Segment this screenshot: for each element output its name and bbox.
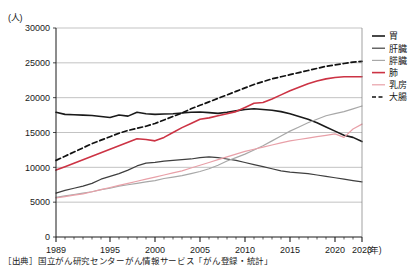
legend-label-1: 肝臓 <box>389 44 407 54</box>
legend-label-2: 膵臓 <box>389 56 407 66</box>
line-chart: 050001000015000200002500030000 198919952… <box>0 0 418 269</box>
legend-label-0: 胃 <box>389 31 398 41</box>
x-axis-ticks: 19891995200020052010201520202023(年) <box>46 237 382 255</box>
x-axis-unit-label: (年) <box>367 245 382 255</box>
y-tick-label: 20000 <box>25 93 50 103</box>
series-line-5 <box>56 61 362 160</box>
y-axis-ticks: 050001000015000200002500030000 <box>25 23 56 242</box>
x-tick-label: 2020 <box>325 245 345 255</box>
chart-legend: 胃肝臓膵臓肺乳房大腸 <box>372 31 407 102</box>
legend-label-3: 肺 <box>389 68 398 78</box>
legend-label-5: 大腸 <box>389 91 407 102</box>
y-tick-label: 15000 <box>25 128 50 138</box>
y-tick-label: 30000 <box>25 23 50 33</box>
y-tick-label: 5000 <box>30 197 50 207</box>
series-lines <box>56 61 362 198</box>
series-line-3 <box>56 77 362 170</box>
y-tick-label: 0 <box>45 232 50 242</box>
y-tick-label: 10000 <box>25 163 50 173</box>
gridlines <box>56 28 362 202</box>
legend-label-4: 乳房 <box>389 79 407 90</box>
source-note: ［出典］国立がん研究センターがん情報サービス「がん登録・統計」 <box>3 254 273 266</box>
x-tick-label: 2015 <box>280 245 300 255</box>
series-line-4 <box>56 124 362 198</box>
chart-figure: (人) 050001000015000200002500030000 19891… <box>0 0 418 269</box>
y-axis-unit-label: (人) <box>8 11 22 24</box>
y-tick-label: 25000 <box>25 58 50 68</box>
